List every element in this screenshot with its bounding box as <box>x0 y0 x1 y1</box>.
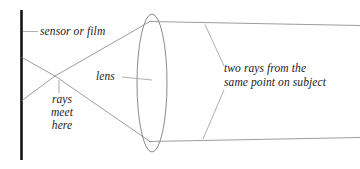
label-lens: lens <box>96 70 115 83</box>
label-sensor-or-film: sensor or film <box>40 25 105 38</box>
label-rays-meet-here: rays meet here <box>40 93 84 132</box>
label-two-rays-same-point: two rays from the same point on subject <box>224 61 326 89</box>
label-rays-meet-line-1: rays <box>40 93 84 106</box>
ray-upper-parallel <box>149 22 360 26</box>
lens-ray-diagram: sensor or film lens rays meet here two r… <box>0 0 360 169</box>
label-two-rays-line-2: same point on subject <box>224 75 326 89</box>
label-rays-meet-line-3: here <box>40 119 84 132</box>
label-two-rays-line-1: two rays from the <box>224 61 326 75</box>
label-rays-meet-line-2: meet <box>40 106 84 119</box>
ray-lower-parallel <box>149 138 360 142</box>
two-rays-upper-leader <box>205 25 224 67</box>
two-rays-lower-leader <box>203 90 224 139</box>
lens-ellipse <box>137 14 167 152</box>
